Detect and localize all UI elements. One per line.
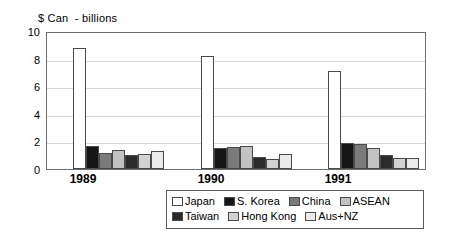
bar-s-korea-1989 bbox=[86, 146, 99, 169]
legend-label: Aus+NZ bbox=[318, 211, 358, 222]
legend-swatch-icon bbox=[289, 197, 300, 206]
bar-japan-1991 bbox=[328, 71, 341, 169]
y-tick-6: 6 bbox=[14, 82, 40, 92]
bar-asean-1990 bbox=[240, 146, 253, 169]
plot-area bbox=[46, 32, 426, 170]
bar-s-korea-1991 bbox=[341, 143, 354, 169]
y-tick-8: 8 bbox=[14, 55, 40, 65]
bar-group-1989 bbox=[73, 33, 164, 169]
bar-aus-nz-1989 bbox=[151, 151, 164, 169]
y-tick-0: 0 bbox=[14, 165, 40, 175]
chart-legend: JapanS. KoreaChinaASEAN TaiwanHong KongA… bbox=[166, 190, 424, 229]
legend-item-s-korea[interactable]: S. Korea bbox=[224, 196, 280, 207]
bar-chart: $ Can - billions 10 8 6 4 2 0 1989 1990 … bbox=[0, 0, 449, 186]
bar-taiwan-1991 bbox=[380, 155, 393, 169]
legend-label: Japan bbox=[185, 196, 215, 207]
bar-group-1991 bbox=[328, 33, 419, 169]
chart-axis-title: $ Can - billions bbox=[38, 12, 117, 24]
legend-swatch-icon bbox=[172, 212, 183, 221]
bar-taiwan-1990 bbox=[253, 157, 266, 169]
bar-china-1990 bbox=[227, 147, 240, 169]
bar-china-1989 bbox=[99, 153, 112, 169]
legend-item-japan[interactable]: Japan bbox=[172, 196, 215, 207]
legend-label: China bbox=[302, 196, 331, 207]
x-label-1989: 1989 bbox=[48, 172, 118, 186]
bar-s-korea-1990 bbox=[214, 148, 227, 169]
x-label-1990: 1990 bbox=[176, 172, 246, 186]
y-tick-2: 2 bbox=[14, 137, 40, 147]
bar-asean-1991 bbox=[367, 148, 380, 169]
legend-swatch-icon bbox=[228, 212, 239, 221]
legend-item-taiwan[interactable]: Taiwan bbox=[172, 211, 219, 222]
legend-swatch-icon bbox=[340, 197, 351, 206]
legend-item-hong-kong[interactable]: Hong Kong bbox=[228, 211, 296, 222]
legend-row-1: JapanS. KoreaChinaASEAN bbox=[172, 194, 418, 209]
bar-japan-1989 bbox=[73, 48, 86, 169]
legend-swatch-icon bbox=[224, 197, 235, 206]
x-label-1991: 1991 bbox=[303, 172, 373, 186]
y-tick-10: 10 bbox=[14, 27, 40, 37]
legend-swatch-icon bbox=[305, 212, 316, 221]
bar-japan-1990 bbox=[201, 56, 214, 169]
legend-row-2: TaiwanHong KongAus+NZ bbox=[172, 209, 418, 224]
legend-item-china[interactable]: China bbox=[289, 196, 331, 207]
bar-asean-1989 bbox=[112, 150, 125, 169]
legend-label: S. Korea bbox=[237, 196, 280, 207]
legend-item-asean[interactable]: ASEAN bbox=[340, 196, 390, 207]
y-tick-4: 4 bbox=[14, 110, 40, 120]
bar-taiwan-1989 bbox=[125, 155, 138, 169]
bar-china-1991 bbox=[354, 144, 367, 169]
bar-hong-kong-1989 bbox=[138, 154, 151, 169]
legend-swatch-icon bbox=[172, 197, 183, 206]
legend-label: Taiwan bbox=[185, 211, 219, 222]
legend-label: ASEAN bbox=[353, 196, 390, 207]
legend-label: Hong Kong bbox=[241, 211, 296, 222]
bar-hong-kong-1990 bbox=[266, 159, 279, 169]
bar-hong-kong-1991 bbox=[393, 158, 406, 169]
bar-aus-nz-1990 bbox=[279, 154, 292, 169]
legend-item-aus-nz[interactable]: Aus+NZ bbox=[305, 211, 358, 222]
bar-group-1990 bbox=[201, 33, 292, 169]
bar-aus-nz-1991 bbox=[406, 158, 419, 169]
